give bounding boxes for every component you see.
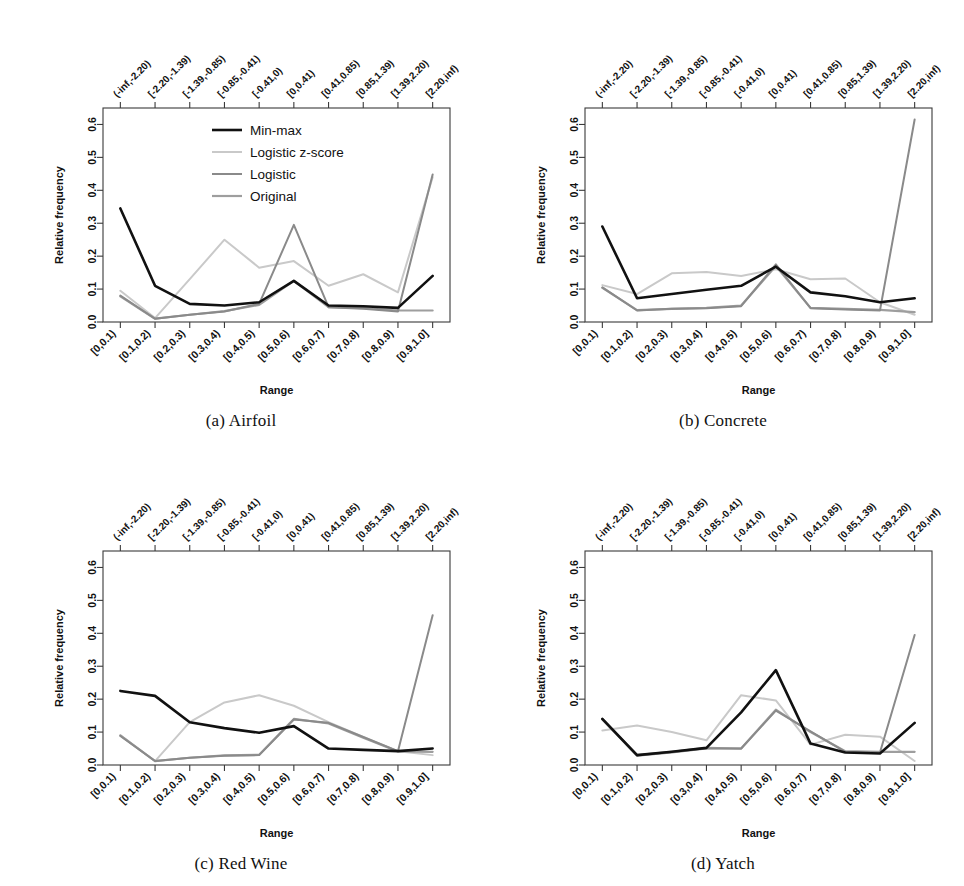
svg-text:[0.9,1.0]: [0.9,1.0] — [876, 770, 912, 806]
svg-text:0.0: 0.0 — [86, 758, 98, 773]
svg-text:0.2: 0.2 — [568, 249, 580, 264]
svg-text:[0.2,0.3): [0.2,0.3) — [633, 770, 669, 806]
svg-text:[0.4,0.5): [0.4,0.5) — [702, 770, 738, 806]
svg-text:[0.5,0.6): [0.5,0.6) — [255, 770, 291, 806]
plot-area-yatch: 0.00.10.20.30.40.50.6Relative frequency[… — [482, 443, 964, 843]
svg-text:[0.8,0.9): [0.8,0.9) — [359, 770, 395, 806]
svg-text:[0.3,0.4): [0.3,0.4) — [668, 770, 704, 806]
panel-concrete: 0.00.10.20.30.40.50.6Relative frequency[… — [482, 0, 964, 443]
svg-text:[0.9,1.0]: [0.9,1.0] — [394, 770, 430, 806]
svg-text:0.3: 0.3 — [568, 216, 580, 231]
svg-text:0.3: 0.3 — [568, 659, 580, 674]
svg-text:[-0.41,0): [-0.41,0) — [250, 65, 285, 100]
svg-text:0.6: 0.6 — [568, 117, 580, 132]
svg-text:Range: Range — [742, 827, 776, 839]
svg-text:[0.1,0.2): [0.1,0.2) — [116, 770, 152, 806]
svg-text:[0.7,0.8): [0.7,0.8) — [807, 770, 843, 806]
svg-text:0.0: 0.0 — [568, 758, 580, 773]
caption-concrete: (b) Concrete — [482, 411, 964, 431]
svg-text:0.6: 0.6 — [86, 560, 98, 575]
svg-text:[0.4,0.5): [0.4,0.5) — [220, 327, 256, 363]
svg-text:[0.1,0.2): [0.1,0.2) — [116, 327, 152, 363]
svg-text:0.5: 0.5 — [568, 150, 580, 165]
svg-text:[0,0.41): [0,0.41) — [766, 67, 798, 99]
svg-text:[0.4,0.5): [0.4,0.5) — [702, 327, 738, 363]
svg-text:[2.20,inf): [2.20,inf) — [905, 63, 942, 100]
caption-red-wine: (c) Red Wine — [0, 854, 482, 874]
svg-text:[0.1,0.2): [0.1,0.2) — [598, 770, 634, 806]
svg-text:0.3: 0.3 — [86, 216, 98, 231]
svg-text:Relative frequency: Relative frequency — [535, 608, 547, 707]
svg-text:[-0.41,0): [-0.41,0) — [250, 508, 285, 543]
svg-text:[0,0.41): [0,0.41) — [284, 67, 316, 99]
svg-text:0.0: 0.0 — [568, 315, 580, 330]
svg-text:[-0.41,0): [-0.41,0) — [732, 508, 767, 543]
svg-text:[0.8,0.9): [0.8,0.9) — [359, 327, 395, 363]
svg-text:[0.6,0.7): [0.6,0.7) — [772, 770, 808, 806]
svg-text:[0.2,0.3): [0.2,0.3) — [151, 770, 187, 806]
caption-yatch: (d) Yatch — [482, 854, 964, 874]
svg-text:0.4: 0.4 — [568, 183, 580, 198]
svg-text:[0.2,0.3): [0.2,0.3) — [151, 327, 187, 363]
svg-text:0.5: 0.5 — [86, 593, 98, 608]
svg-text:0.4: 0.4 — [86, 626, 98, 641]
svg-text:[2.20,inf): [2.20,inf) — [905, 506, 942, 543]
chart-svg-red-wine: 0.00.10.20.30.40.50.6Relative frequency[… — [0, 443, 482, 843]
svg-text:0.1: 0.1 — [568, 725, 580, 740]
caption-airfoil: (a) Airfoil — [0, 411, 482, 431]
svg-text:[0,0.1): [0,0.1) — [570, 770, 600, 800]
svg-text:[0.7,0.8): [0.7,0.8) — [325, 770, 361, 806]
svg-text:Range: Range — [742, 384, 776, 396]
svg-text:[0.5,0.6): [0.5,0.6) — [737, 327, 773, 363]
svg-text:0.1: 0.1 — [568, 282, 580, 297]
svg-text:Range: Range — [260, 384, 294, 396]
svg-text:[0.1,0.2): [0.1,0.2) — [598, 327, 634, 363]
svg-text:[0.9,1.0]: [0.9,1.0] — [876, 327, 912, 363]
svg-text:[2.20,inf): [2.20,inf) — [423, 63, 460, 100]
svg-text:[0.7,0.8): [0.7,0.8) — [325, 327, 361, 363]
plot-area-red-wine: 0.00.10.20.30.40.50.6Relative frequency[… — [0, 443, 482, 843]
chart-svg-airfoil: 0.00.10.20.30.40.50.6Relative frequency[… — [0, 0, 482, 400]
svg-text:[0.5,0.6): [0.5,0.6) — [737, 770, 773, 806]
svg-text:0.0: 0.0 — [86, 315, 98, 330]
svg-text:[-0.41,0): [-0.41,0) — [732, 65, 767, 100]
svg-text:0.1: 0.1 — [86, 282, 98, 297]
svg-text:0.2: 0.2 — [86, 249, 98, 264]
plot-area-airfoil: 0.00.10.20.30.40.50.6Relative frequency[… — [0, 0, 482, 400]
svg-text:[2.20,inf): [2.20,inf) — [423, 506, 460, 543]
svg-text:0.5: 0.5 — [568, 593, 580, 608]
svg-text:Relative frequency: Relative frequency — [53, 608, 65, 707]
svg-text:Min-max: Min-max — [250, 123, 302, 138]
panel-yatch: 0.00.10.20.30.40.50.6Relative frequency[… — [482, 443, 964, 886]
svg-text:[0,0.1): [0,0.1) — [570, 327, 600, 357]
svg-text:[0.3,0.4): [0.3,0.4) — [668, 327, 704, 363]
svg-text:0.4: 0.4 — [86, 183, 98, 198]
svg-text:[0.5,0.6): [0.5,0.6) — [255, 327, 291, 363]
svg-text:Relative frequency: Relative frequency — [535, 165, 547, 264]
svg-text:0.3: 0.3 — [86, 659, 98, 674]
svg-text:0.6: 0.6 — [568, 560, 580, 575]
svg-text:0.2: 0.2 — [86, 692, 98, 707]
svg-text:[0.3,0.4): [0.3,0.4) — [186, 327, 222, 363]
svg-text:[0.8,0.9): [0.8,0.9) — [841, 770, 877, 806]
plot-area-concrete: 0.00.10.20.30.40.50.6Relative frequency[… — [482, 0, 964, 400]
svg-text:0.1: 0.1 — [86, 725, 98, 740]
svg-text:[0.6,0.7): [0.6,0.7) — [290, 327, 326, 363]
svg-text:[0.8,0.9): [0.8,0.9) — [841, 327, 877, 363]
svg-text:Logistic z-score: Logistic z-score — [250, 145, 344, 160]
svg-text:[0.7,0.8): [0.7,0.8) — [807, 327, 843, 363]
chart-svg-concrete: 0.00.10.20.30.40.50.6Relative frequency[… — [482, 0, 964, 400]
svg-text:[0.6,0.7): [0.6,0.7) — [290, 770, 326, 806]
svg-text:0.5: 0.5 — [86, 150, 98, 165]
svg-text:Relative frequency: Relative frequency — [53, 165, 65, 264]
svg-text:[0,0.41): [0,0.41) — [284, 510, 316, 542]
figure-container: 0.00.10.20.30.40.50.6Relative frequency[… — [0, 0, 964, 886]
svg-text:Range: Range — [260, 827, 294, 839]
svg-text:[0.6,0.7): [0.6,0.7) — [772, 327, 808, 363]
svg-text:0.6: 0.6 — [86, 117, 98, 132]
svg-text:[0.3,0.4): [0.3,0.4) — [186, 770, 222, 806]
svg-text:[0,0.41): [0,0.41) — [766, 510, 798, 542]
chart-svg-yatch: 0.00.10.20.30.40.50.6Relative frequency[… — [482, 443, 964, 843]
svg-text:Logistic: Logistic — [250, 167, 296, 182]
svg-text:[0.9,1.0]: [0.9,1.0] — [394, 327, 430, 363]
